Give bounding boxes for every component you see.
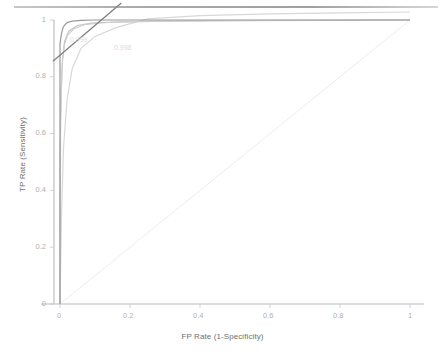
chance-diagonal-line [60,20,410,304]
y-tick-label-0-6: 0.6 [28,128,46,137]
y-axis-title: TP Rate (Sensitivity) [18,95,27,215]
auc-label-1: 0.999 [70,36,88,43]
x-tick-label-0-6: 0.6 [263,311,273,320]
plot-frame [41,20,424,304]
x-tick-label-1: 1 [408,311,412,320]
tangent-line [53,3,121,61]
y-tick-marks [50,20,54,304]
y-tick-label-0-8: 0.8 [28,71,46,80]
x-axis-title: FP Rate (1-Specificity) [0,332,445,341]
y-tick-label-0-4: 0.4 [28,185,46,194]
x-tick-label-0: 0 [57,311,61,320]
roc-curve-3 [60,12,410,304]
auc-label-2: 0.998 [114,44,132,51]
roc-chart [0,0,445,357]
y-tick-label-1: 1 [32,15,46,24]
y-tick-label-0-2: 0.2 [28,242,46,251]
x-tick-label-0-4: 0.4 [193,311,203,320]
y-tick-label-0: 0 [32,299,46,308]
x-tick-label-0-2: 0.2 [123,311,133,320]
x-tick-marks [60,304,410,308]
x-tick-label-0-8: 0.8 [333,311,343,320]
